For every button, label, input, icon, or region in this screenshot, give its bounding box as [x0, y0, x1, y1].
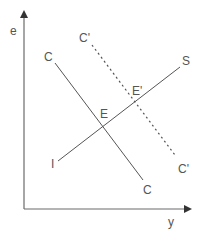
curve-c-prime-label-end: C' [178, 163, 189, 175]
curve-s-label: S [182, 55, 190, 67]
curve-c-prime-label-start: C' [79, 32, 90, 44]
y-axis-label: e [10, 25, 17, 37]
curve-c-label-end: C [143, 184, 152, 196]
x-axis-label: y [168, 216, 174, 228]
point-e-prime-label: E' [132, 85, 142, 97]
curve-c [55, 63, 143, 180]
curve-i-label: I [51, 158, 54, 170]
curve-c-label-start: C [44, 51, 53, 63]
curve-c-prime [92, 45, 175, 155]
point-e-label: E [100, 108, 108, 120]
